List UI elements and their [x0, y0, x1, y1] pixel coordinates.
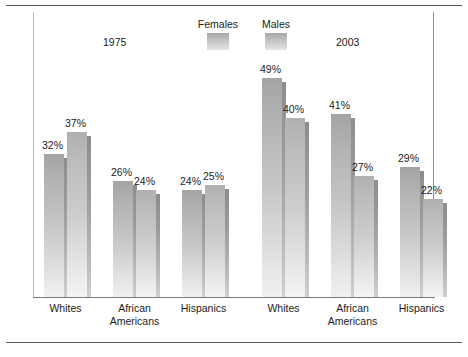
category-label-line: Hispanics	[181, 302, 227, 315]
bar-1975-whites-females	[44, 154, 64, 297]
bar-1975-hispanics-females	[182, 190, 202, 297]
bar-2003-hispanics-males	[423, 199, 443, 297]
legend-label-females: Females	[186, 18, 250, 30]
bar-shadow	[156, 194, 160, 297]
legend-label-males: Males	[244, 18, 308, 30]
category-label-line: Whites	[267, 302, 299, 315]
bar-value-label: 40%	[283, 103, 304, 115]
bar-2003-african-americans-males	[354, 176, 374, 297]
category-axis-line	[33, 297, 435, 298]
category-label-line: Whites	[49, 302, 81, 315]
category-label-african: AfricanAmericans	[110, 302, 160, 328]
category-label-whites: Whites	[267, 302, 299, 315]
legend-item-females: Females	[186, 18, 250, 50]
bar-value-label: 24%	[134, 175, 155, 187]
category-label-hispanics: Hispanics	[399, 302, 445, 315]
category-label-line: Americans	[328, 315, 378, 328]
category-label-line: African	[110, 302, 160, 315]
plot-left-border	[33, 12, 34, 298]
bar-value-label: 37%	[65, 117, 86, 129]
bar-value-label: 26%	[111, 166, 132, 178]
bottom-divider-rule	[6, 342, 462, 343]
bar-shadow	[87, 136, 91, 297]
bar-1975-african-americans-males	[136, 190, 156, 297]
category-label-line: Hispanics	[399, 302, 445, 315]
category-label-hispanics: Hispanics	[181, 302, 227, 315]
bar-2003-hispanics-females	[400, 167, 420, 297]
category-label-line: African	[328, 302, 378, 315]
legend-item-males: Males	[244, 18, 308, 50]
category-label-whites: Whites	[49, 302, 81, 315]
bar-value-label: 22%	[421, 184, 442, 196]
bar-shadow	[374, 180, 378, 297]
bar-value-label: 27%	[352, 161, 373, 173]
group-title-2003: 2003	[336, 36, 359, 48]
chart-figure: Females Males 1975 2003 32%37%26%24%24%2…	[0, 0, 468, 357]
group-title-1975: 1975	[103, 36, 126, 48]
bar-shadow	[305, 122, 309, 297]
bar-value-label: 49%	[260, 63, 281, 75]
bar-2003-african-americans-females	[331, 114, 351, 297]
bar-value-label: 25%	[203, 170, 224, 182]
bar-1975-african-americans-females	[113, 181, 133, 297]
bar-value-label: 29%	[398, 152, 419, 164]
bar-value-label: 41%	[329, 99, 350, 111]
legend-swatch-females	[207, 33, 229, 50]
bar-shadow	[225, 189, 229, 297]
category-label-african: AfricanAmericans	[328, 302, 378, 328]
bar-1975-whites-males	[67, 132, 87, 297]
bar-value-label: 32%	[42, 139, 63, 151]
bar-value-label: 24%	[180, 175, 201, 187]
bar-2003-whites-males	[285, 118, 305, 297]
category-label-line: Americans	[110, 315, 160, 328]
bar-2003-whites-females	[262, 78, 282, 297]
bar-1975-hispanics-males	[205, 185, 225, 297]
bar-shadow	[443, 203, 447, 297]
top-divider-rule	[6, 5, 462, 6]
legend-swatch-males	[265, 33, 287, 50]
